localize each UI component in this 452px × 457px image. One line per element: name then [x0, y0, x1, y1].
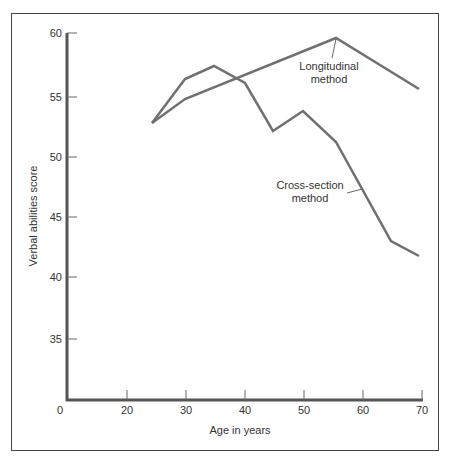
- x-tick-label: 60: [357, 404, 369, 416]
- series-longitudinal: [152, 38, 419, 123]
- y-tick-label: 55: [50, 91, 62, 103]
- x-tick-label: 30: [180, 404, 192, 416]
- chart-svg: 60 55 50 45 40 35 0 20 30 40 50 60 70 Ag…: [0, 0, 452, 457]
- x-tick-label: 70: [416, 404, 428, 416]
- longitudinal-label-line2: method: [311, 73, 348, 85]
- y-tick-label: 50: [50, 151, 62, 163]
- y-tick-label: 40: [50, 271, 62, 283]
- x-axis-title: Age in years: [209, 424, 271, 436]
- x-tick-label: 0: [57, 404, 63, 416]
- y-tick-label: 35: [50, 333, 62, 345]
- y-tick-label: 60: [50, 27, 62, 39]
- x-tick-label: 20: [121, 404, 133, 416]
- y-axis-title: Verbal abilities score: [27, 166, 39, 267]
- cross-section-label-line2: method: [292, 192, 329, 204]
- x-tick-label: 50: [298, 404, 310, 416]
- y-tick-label: 45: [50, 211, 62, 223]
- cross-section-label-line1: Cross-section: [276, 179, 343, 191]
- longitudinal-leader-line: [332, 39, 336, 58]
- longitudinal-label-line1: Longitudinal: [299, 60, 358, 72]
- cross-section-leader-line: [347, 189, 362, 193]
- series-cross-section: [152, 66, 419, 256]
- x-tick-label: 40: [239, 404, 251, 416]
